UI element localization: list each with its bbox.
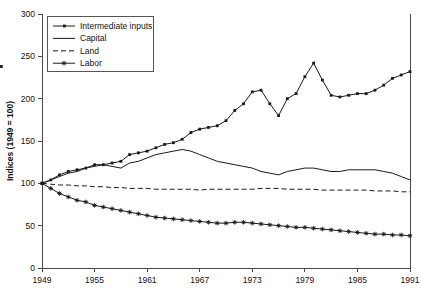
y-tick-label: 250 — [21, 51, 35, 61]
x-tick-label: 1949 — [33, 275, 52, 285]
legend-label: Labor — [80, 58, 102, 68]
y-tick-label: 300 — [21, 9, 35, 19]
data-series-group — [0, 62, 412, 238]
y-tick-label: 150 — [21, 136, 35, 146]
x-tick-label: 1973 — [243, 275, 262, 285]
line-chart: Indices (1949 = 100) 050100150200250300 … — [0, 0, 421, 297]
y-tick-label: 50 — [26, 221, 36, 231]
y-axis-label-group: Indices (1949 = 100) — [5, 101, 15, 181]
chart-legend: Intermediate inputsCapitalLandLabor — [47, 16, 153, 71]
chart-container: Indices (1949 = 100) 050100150200250300 … — [0, 0, 421, 297]
legend-label: Capital — [80, 33, 107, 43]
legend-label: Land — [80, 46, 99, 56]
x-tick-label: 1991 — [401, 275, 420, 285]
y-tick-label: 200 — [21, 94, 35, 104]
y-tick-label: 0 — [30, 263, 35, 273]
y-axis-ticks: 050100150200250300 — [21, 9, 42, 273]
series-intermediate-inputs — [0, 62, 411, 185]
series-land — [42, 183, 410, 191]
x-tick-label: 1985 — [348, 275, 367, 285]
x-tick-label: 1961 — [138, 275, 157, 285]
x-tick-label: 1979 — [295, 275, 314, 285]
y-tick-label: 100 — [21, 178, 35, 188]
y-axis-title: Indices (1949 = 100) — [5, 101, 15, 181]
x-axis-ticks: 19491955196119671973197919851991 — [33, 268, 420, 285]
legend-label: Intermediate inputs — [80, 21, 152, 31]
x-tick-label: 1967 — [190, 275, 209, 285]
x-tick-label: 1955 — [85, 275, 104, 285]
series-capital — [42, 149, 410, 183]
